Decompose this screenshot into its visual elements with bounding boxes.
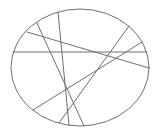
chord-line-d	[59, 26, 129, 123]
chord-line-a	[27, 32, 149, 68]
chord-line-c	[58, 12, 69, 125]
ellipse-chords-diagram	[0, 0, 153, 133]
